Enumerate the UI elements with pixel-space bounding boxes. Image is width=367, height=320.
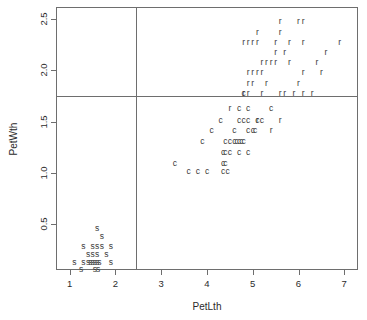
y-tick [51,173,56,174]
x-tick [161,270,162,275]
x-tick-label: 2 [113,279,118,289]
data-point-c: c [246,104,250,113]
data-point-r: r [302,38,305,47]
data-point-r: r [228,104,231,113]
data-point-r: r [320,68,323,77]
data-point-c: c [237,148,241,157]
vertical-split-line [136,7,137,270]
scatter-plot-figure: 1234567 0.51.01.52.02.5 ssssssssssssssss… [0,0,367,320]
data-point-r: r [256,115,259,124]
y-tick-label: 2.0 [39,64,49,77]
x-tick [70,270,71,275]
data-point-r: r [288,58,291,67]
y-tick [51,122,56,123]
x-tick [253,270,254,275]
data-point-s: s [96,265,100,274]
data-point-r: r [302,68,305,77]
data-point-r: r [297,17,300,26]
data-point-r: r [260,68,263,77]
data-point-r: r [325,48,328,57]
y-tick-label: 2.5 [39,13,49,26]
data-point-r: r [283,48,286,57]
data-point-c: c [232,126,236,135]
data-point-r: r [265,78,268,87]
data-point-r: r [293,89,296,98]
data-point-r: r [242,38,245,47]
data-point-r: r [251,68,254,77]
data-point-r: r [274,38,277,47]
x-tick-label: 5 [250,279,255,289]
y-tick-label: 0.5 [39,217,49,230]
data-point-r: r [270,58,273,67]
y-tick [51,19,56,20]
data-point-c: c [219,115,223,124]
data-point-r: r [279,115,282,124]
data-point-c: c [241,137,245,146]
data-point-r: r [297,78,300,87]
x-tick-label: 4 [204,279,209,289]
data-point-r: r [302,17,305,26]
x-tick-label: 7 [342,279,347,289]
x-axis-title: PetLth [193,302,222,312]
data-point-c: c [246,115,250,124]
data-point-r: r [311,89,314,98]
data-point-r: r [260,58,263,67]
data-point-r: r [338,38,341,47]
data-point-c: c [209,126,213,135]
data-point-r: r [274,48,277,57]
data-point-s: s [109,258,113,267]
x-tick [299,270,300,275]
y-tick [51,70,56,71]
data-point-r: r [256,38,259,47]
y-tick [51,224,56,225]
data-point-r: r [288,38,291,47]
data-point-c: c [196,166,200,175]
data-point-s: s [79,265,83,274]
data-point-c: c [253,126,257,135]
data-point-r: r [315,58,318,67]
x-tick-label: 6 [296,279,301,289]
x-tick-label: 3 [159,279,164,289]
data-point-r: r [242,89,245,98]
data-point-r: r [256,68,259,77]
data-point-r: r [247,38,250,47]
data-point-s: s [72,258,76,267]
data-point-r: r [247,68,250,77]
y-tick-label: 1.5 [39,115,49,128]
data-point-s: s [100,232,104,241]
data-point-r: r [302,89,305,98]
data-point-c: c [205,166,209,175]
x-tick [115,270,116,275]
data-point-c: c [225,166,229,175]
data-point-r: r [283,89,286,98]
x-tick [207,270,208,275]
data-point-c: c [228,148,232,157]
data-point-c: c [173,158,177,167]
data-point-r: r [279,27,282,36]
data-point-r: r [279,17,282,26]
data-point-r: r [270,126,273,135]
x-tick-label: 1 [67,279,72,289]
data-point-s: s [109,242,113,251]
data-point-c: c [237,104,241,113]
data-point-c: c [260,115,264,124]
data-point-r: r [260,89,263,98]
data-point-c: c [269,104,273,113]
data-point-r: r [251,78,254,87]
data-point-r: r [247,89,250,98]
data-point-c: c [246,148,250,157]
data-point-r: r [265,58,268,67]
data-point-c: c [187,166,191,175]
x-tick [344,270,345,275]
data-point-r: r [279,89,282,98]
data-point-r: r [274,58,277,67]
data-point-r: r [251,38,254,47]
data-point-r: r [256,27,259,36]
y-axis-title: PetWth [9,122,19,155]
data-point-r: r [247,78,250,87]
y-tick-label: 1.0 [39,166,49,179]
data-point-c: c [200,137,204,146]
